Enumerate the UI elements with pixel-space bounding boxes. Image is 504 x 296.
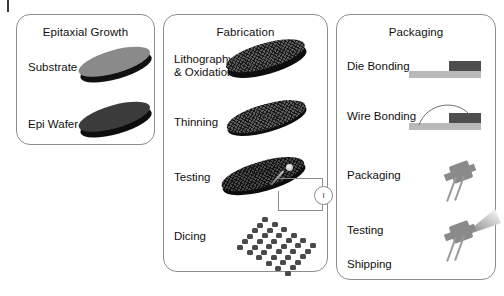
- step-label-testing-packaged: Testing: [347, 224, 383, 237]
- panel-fabrication: Fabrication Lithography & Oxidation Thin…: [163, 14, 328, 272]
- die-unit: [295, 243, 301, 248]
- panel-title-fabrication: Fabrication: [164, 26, 327, 38]
- die-unit: [281, 244, 287, 249]
- die-unit: [276, 249, 282, 254]
- current-source-symbol: I: [314, 186, 333, 205]
- die-unit: [252, 245, 258, 250]
- die-unit: [271, 239, 277, 244]
- circuit-wire-bottom: [278, 210, 323, 211]
- die-unit: [276, 233, 282, 238]
- die-unit: [272, 222, 278, 227]
- die-bonding-substrate: [409, 71, 481, 78]
- die-unit: [286, 238, 292, 243]
- die-unit: [271, 255, 277, 260]
- die-unit: [237, 245, 243, 250]
- step-label-testing: Testing: [174, 171, 210, 184]
- die-unit: [280, 260, 286, 265]
- die-unit: [267, 228, 273, 233]
- step-label-dicing: Dicing: [174, 230, 206, 243]
- die-unit: [290, 249, 296, 254]
- wafer-epi-graphic: [77, 101, 154, 144]
- die-unit: [247, 234, 253, 239]
- die-unit: [266, 261, 272, 266]
- die-array-graphic: [234, 215, 320, 275]
- wafer-thinning-graphic: [224, 96, 310, 143]
- wafer-substrate-graphic: [77, 46, 154, 89]
- die-unit: [285, 271, 291, 276]
- corner-tick-artifact: [7, 0, 9, 12]
- step-label-shipping: Shipping: [347, 258, 392, 271]
- die-unit: [252, 228, 258, 233]
- die-unit: [305, 249, 311, 254]
- die-unit: [290, 265, 296, 270]
- die-unit: [262, 233, 268, 238]
- die-unit: [257, 239, 263, 244]
- die-unit: [300, 238, 306, 243]
- step-label-substrate: Substrate: [28, 61, 77, 74]
- die-unit: [291, 233, 297, 238]
- panel-epitaxial-growth: Epitaxial Growth Substrate Epi Wafer: [16, 14, 155, 145]
- panel-title-packaging: Packaging: [337, 26, 495, 38]
- die-unit: [262, 217, 268, 222]
- to-package-device-graphic: [433, 155, 493, 211]
- process-flow-diagram: Epitaxial Growth Substrate Epi Wafer Fab…: [0, 0, 504, 296]
- die-unit: [310, 243, 316, 248]
- step-label-wire-bonding: Wire Bonding: [347, 110, 416, 123]
- probe-assembly: I: [260, 163, 340, 211]
- die-unit: [275, 266, 281, 271]
- probe-head-icon: [286, 164, 293, 171]
- wafer-lithography-graphic: [224, 38, 310, 85]
- circuit-wire-top: [278, 178, 323, 179]
- die-unit: [295, 260, 301, 265]
- die-unit: [257, 223, 263, 228]
- step-label-packaging: Packaging: [347, 169, 401, 182]
- die-unit: [256, 255, 262, 260]
- panel-title-epitaxial-growth: Epitaxial Growth: [17, 26, 154, 38]
- step-label-die-bonding: Die Bonding: [347, 60, 410, 73]
- to-package-device-testing-graphic: [433, 207, 503, 267]
- die-unit: [247, 250, 253, 255]
- step-label-thinning: Thinning: [174, 116, 218, 129]
- wafer-surface-textured: [223, 93, 309, 140]
- panel-packaging: Packaging Die Bonding Wire Bonding Packa…: [336, 14, 496, 280]
- step-label-epi-wafer: Epi Wafer: [28, 118, 78, 131]
- die-bonding-chip: [449, 61, 481, 71]
- circuit-wire-left: [278, 191, 279, 211]
- die-unit: [285, 255, 291, 260]
- probe-contact-point: [268, 184, 273, 188]
- die-unit: [261, 250, 267, 255]
- die-unit: [300, 254, 306, 259]
- die-unit: [281, 227, 287, 232]
- bond-wire-arc: [417, 101, 477, 127]
- die-unit: [242, 239, 248, 244]
- die-unit: [266, 244, 272, 249]
- current-source-label: I: [322, 191, 324, 200]
